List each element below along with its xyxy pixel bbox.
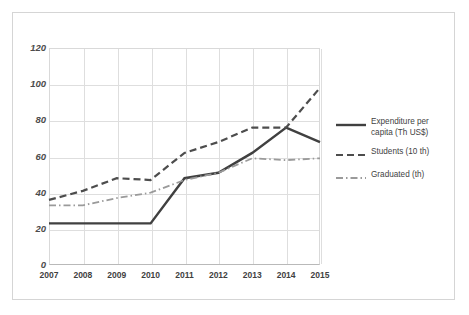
series-line xyxy=(49,158,320,205)
y-axis-tick-label: 120 xyxy=(12,43,46,53)
legend-item[interactable]: Students (10 th) xyxy=(336,147,452,161)
y-axis-tick-label: 40 xyxy=(12,188,46,198)
chart-series-lines xyxy=(49,48,320,265)
legend-label: Graduated (th) xyxy=(371,170,424,181)
chart-figure: 020406080100120 200720082009201020112012… xyxy=(0,0,469,315)
y-axis-tick-label: 0 xyxy=(12,260,46,270)
gridline-vertical xyxy=(321,49,322,264)
legend-label: Students (10 th) xyxy=(371,147,429,158)
x-axis-tick-label: 2015 xyxy=(300,270,340,280)
y-axis-tick-label: 20 xyxy=(12,224,46,234)
legend-item[interactable]: Graduated (th) xyxy=(336,170,452,184)
solid-line-swatch xyxy=(336,117,366,131)
legend-label: Expenditure percapita (Th US$) xyxy=(371,117,429,138)
y-axis-tick-label: 100 xyxy=(12,79,46,89)
dashdot-line-swatch xyxy=(336,170,366,184)
y-axis-tick-label: 80 xyxy=(12,115,46,125)
dashed-line-swatch xyxy=(336,147,366,161)
y-axis-tick-labels: 020406080100120 xyxy=(8,0,46,315)
series-line xyxy=(49,88,320,200)
y-axis-tick-label: 60 xyxy=(12,152,46,162)
legend-item[interactable]: Expenditure percapita (Th US$) xyxy=(336,117,452,138)
series-line xyxy=(49,128,320,224)
chart-legend: Expenditure percapita (Th US$)Students (… xyxy=(336,117,452,193)
